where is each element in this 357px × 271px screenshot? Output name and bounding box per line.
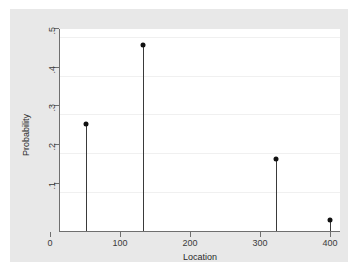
y-tick-label: .3 — [47, 104, 57, 112]
gridline — [60, 114, 340, 115]
data-stem — [86, 124, 87, 231]
x-tick — [190, 232, 191, 237]
y-axis-line — [59, 29, 60, 232]
x-tick-label: 100 — [112, 238, 127, 248]
data-point — [273, 157, 278, 162]
x-tick — [50, 232, 51, 237]
x-tick — [330, 232, 331, 237]
x-tick-label: 0 — [47, 238, 52, 248]
x-tick-label: 300 — [252, 238, 267, 248]
y-tick-label: .5 — [47, 27, 57, 35]
gridline — [60, 153, 340, 154]
y-tick-label: .2 — [47, 143, 57, 151]
data-stem — [143, 45, 144, 231]
data-point — [140, 43, 145, 48]
x-tick — [260, 232, 261, 237]
gridline — [60, 76, 340, 77]
data-point — [83, 122, 88, 127]
x-tick-label: 200 — [182, 238, 197, 248]
x-tick-label: 400 — [322, 238, 337, 248]
y-tick-label: .1 — [47, 182, 57, 190]
data-point — [327, 218, 332, 223]
plot-area — [60, 29, 340, 231]
chart-figure: .1.2.3.4.5 0100200300400 Probability Loc… — [0, 0, 357, 271]
x-tick — [120, 232, 121, 237]
x-axis-title: Location — [183, 252, 217, 262]
y-axis-title: Probability — [21, 114, 31, 156]
gridline — [60, 37, 340, 38]
data-stem — [276, 159, 277, 231]
y-tick-label: .4 — [47, 66, 57, 74]
x-axis-line — [59, 231, 340, 232]
gridline — [60, 192, 340, 193]
graph-region: .1.2.3.4.5 0100200300400 Probability Loc… — [10, 9, 348, 262]
